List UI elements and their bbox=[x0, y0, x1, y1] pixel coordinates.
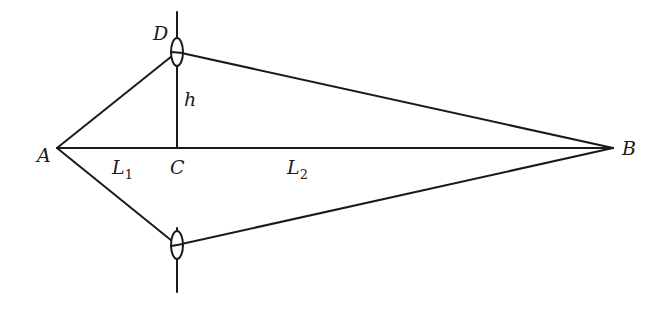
label-L2-base: L bbox=[286, 156, 300, 178]
segment-EB bbox=[177, 148, 613, 245]
label-L1: L1 bbox=[111, 156, 133, 182]
label-A: A bbox=[35, 144, 51, 166]
label-L1-sub: 1 bbox=[125, 167, 133, 182]
upper-lens-ray bbox=[171, 52, 183, 53]
label-h: h bbox=[184, 88, 196, 110]
label-B: B bbox=[621, 137, 636, 159]
label-C: C bbox=[170, 156, 185, 178]
label-L1-base: L bbox=[111, 156, 125, 178]
label-L2: L2 bbox=[286, 156, 308, 182]
segment-DB bbox=[177, 52, 613, 148]
label-L2-sub: 2 bbox=[300, 167, 308, 182]
diagram-canvas: D h A C B L1 L2 bbox=[0, 0, 665, 313]
segment-AD bbox=[57, 52, 177, 148]
label-D: D bbox=[152, 22, 168, 44]
